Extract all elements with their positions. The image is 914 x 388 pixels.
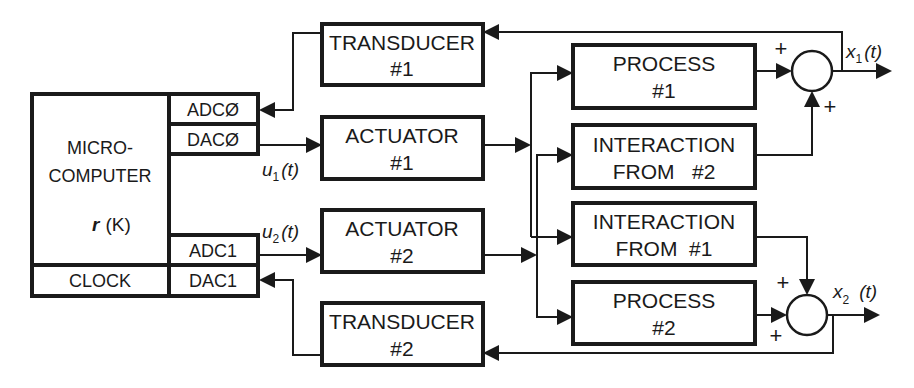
microcomputer-function-label: r (K) <box>92 214 131 235</box>
u2-var: u <box>262 221 273 242</box>
transducer-1-block: TRANSDUCER #1 <box>322 24 483 85</box>
process-1-block: PROCESS #1 <box>573 45 755 108</box>
arrow-right-icon <box>771 307 787 323</box>
process-1-line1: PROCESS <box>613 52 716 75</box>
arrow-right-icon <box>306 247 322 263</box>
microcomputer-title-line1: MICRO- <box>67 138 133 158</box>
function-var: r <box>92 214 101 235</box>
x1-label: x1(t) <box>845 41 882 66</box>
summing-junction-2 <box>787 295 827 335</box>
arrow-right-icon <box>306 137 322 153</box>
arrow-left-icon <box>483 345 499 361</box>
process-2-line2: #2 <box>652 316 675 339</box>
arrow-right-icon <box>521 247 537 263</box>
dac1-label: DAC1 <box>189 271 237 291</box>
x2-label: x2(t) <box>832 281 877 307</box>
actuator-2-line2: #2 <box>390 244 413 267</box>
actuator-1-line2: #1 <box>390 151 413 174</box>
u2-sub: 2 <box>273 232 280 246</box>
interaction-from-1-block: INTERACTION FROM #1 <box>573 203 755 265</box>
arrow-right-icon <box>515 137 531 153</box>
u1-label: u1(t) <box>262 159 299 184</box>
u1-arg: (t) <box>281 159 299 180</box>
adc0-label: ADCØ <box>187 100 239 120</box>
x2-sub: 2 <box>843 293 850 307</box>
arrow-left-icon <box>259 102 275 118</box>
sum1-sign-left: + <box>775 36 788 61</box>
u1-var: u <box>262 159 273 180</box>
actuator-2-block: ACTUATOR #2 <box>322 210 483 272</box>
interaction-from-1-line1: INTERACTION <box>593 210 735 233</box>
arrow-right-icon <box>776 63 792 79</box>
transducer-1-line1: TRANSDUCER <box>329 31 475 54</box>
control-block-diagram: MICRO- COMPUTER r (K) ADCØ DACØ ADC1 DAC… <box>0 0 914 388</box>
function-arg: (K) <box>105 214 130 235</box>
arrow-right-icon <box>557 229 573 245</box>
x2-arg: (t) <box>859 281 877 302</box>
transducer-1-feedback-line <box>272 33 322 110</box>
arrow-down-icon <box>799 279 815 295</box>
interaction-from-2-line1: INTERACTION <box>593 133 735 156</box>
arrow-right-icon <box>557 65 573 81</box>
u2-label: u2(t) <box>262 221 299 246</box>
transducer-2-feedback-line <box>272 280 322 355</box>
transducer-2-line1: TRANSDUCER <box>329 310 475 333</box>
actuator-2-line1: ACTUATOR <box>345 217 459 240</box>
arrow-left-icon <box>259 272 275 288</box>
microcomputer-block: MICRO- COMPUTER r (K) ADCØ DACØ ADC1 DAC… <box>32 94 258 296</box>
actuator-1-block: ACTUATOR #1 <box>322 117 483 179</box>
process-2-line1: PROCESS <box>613 289 716 312</box>
process-1-line2: #1 <box>652 79 675 102</box>
sum1-sign-bottom: + <box>824 94 837 119</box>
microcomputer-title-line2: COMPUTER <box>49 166 152 186</box>
sum2-sign-left: + <box>770 323 783 348</box>
transducer-2-line2: #2 <box>390 337 413 360</box>
clock-label: CLOCK <box>69 271 131 291</box>
interaction-2-output-line <box>755 105 812 155</box>
interaction-from-2-line2: FROM #2 <box>613 160 716 183</box>
u2-arg: (t) <box>281 221 299 242</box>
x1-arg: (t) <box>864 41 882 62</box>
interaction-from-1-line2: FROM #1 <box>616 237 713 260</box>
arrow-right-icon <box>864 307 880 323</box>
arrow-left-icon <box>483 24 499 40</box>
dac0-label: DACØ <box>187 130 239 150</box>
arrow-right-icon <box>557 147 573 163</box>
interaction-from-2-block: INTERACTION FROM #2 <box>573 125 755 188</box>
sum2-sign-top: + <box>777 270 790 295</box>
u1-sub: 1 <box>273 170 280 184</box>
arrow-up-icon <box>804 91 820 107</box>
transducer-2-block: TRANSDUCER #2 <box>322 303 483 365</box>
process-2-block: PROCESS #2 <box>573 282 755 344</box>
actuator-1-line1: ACTUATOR <box>345 124 459 147</box>
x1-sub: 1 <box>856 52 863 66</box>
arrow-right-icon <box>876 63 892 79</box>
transducer-1-line2: #1 <box>390 57 413 80</box>
arrow-right-icon <box>557 309 573 325</box>
summing-junction-1 <box>792 51 832 91</box>
adc1-label: ADC1 <box>189 241 237 261</box>
